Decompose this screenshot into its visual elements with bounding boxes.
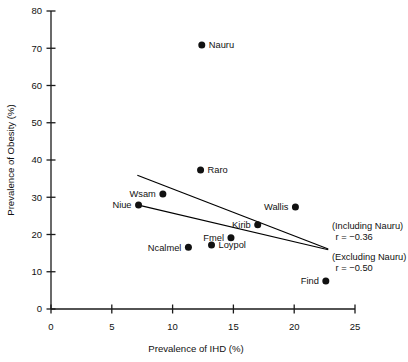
x-axis-tick-label: 0 (48, 321, 53, 332)
x-axis: 0510152025 (48, 305, 360, 333)
data-point-marker (185, 244, 192, 251)
y-axis-tick-label: 60 (31, 80, 42, 91)
data-point-marker (292, 203, 299, 210)
x-axis-tick-label: 20 (289, 321, 300, 332)
data-point-label: Nauru (209, 40, 234, 50)
data-point-label: Wsam (130, 189, 157, 199)
y-axis-tick-label: 30 (31, 192, 42, 203)
y-axis-tick-label: 70 (31, 43, 42, 54)
y-axis: 01020304050607080 (31, 5, 55, 314)
data-point-label: Wallis (264, 202, 289, 212)
x-axis-tick-label: 5 (109, 321, 114, 332)
data-points: NauruRaroWsamNiueWallisKiribFmelLoypolNc… (112, 40, 329, 286)
y-axis-tick-label: 40 (31, 154, 42, 165)
y-axis-tick-label: 20 (31, 229, 42, 240)
data-point-marker (197, 167, 204, 174)
correlation-annotations: (Including Nauru)r = −0.36(Excluding Nau… (332, 221, 406, 273)
x-axis-tick-label: 10 (167, 321, 178, 332)
y-axis-tick-label: 0 (37, 303, 42, 314)
data-point-label: Ncalmel (148, 243, 182, 253)
y-axis-tick-label: 10 (31, 266, 42, 277)
scatter-plot-figure: 01020304050607080 0510152025 NauruRaroWs… (0, 0, 408, 362)
annotation-text: r = −0.36 (336, 232, 373, 242)
x-axis-tick-label: 25 (350, 321, 361, 332)
data-point-label: Loypol (219, 240, 246, 250)
y-axis-tick-label: 50 (31, 117, 42, 128)
data-point-marker (159, 190, 166, 197)
y-axis-title: Prevalence of Obesity (%) (5, 104, 16, 215)
x-axis-title: Prevalence of IHD (%) (148, 343, 243, 354)
x-axis-tick-label: 15 (228, 321, 239, 332)
data-point-label: Niue (112, 200, 131, 210)
y-axis-tick-label: 80 (31, 5, 42, 16)
annotation-text: (Excluding Nauru) (332, 252, 406, 262)
data-point-marker (254, 221, 261, 228)
data-point-label: Raro (208, 165, 228, 175)
data-point-marker (135, 202, 142, 209)
annotation-text: r = −0.50 (336, 263, 373, 273)
data-point-marker (198, 41, 205, 48)
data-point-label: Kirib (232, 220, 251, 230)
data-point-marker (322, 278, 329, 285)
data-point-label: Find (301, 276, 319, 286)
plot-canvas: 01020304050607080 0510152025 NauruRaroWs… (0, 0, 408, 362)
annotation-text: (Including Nauru) (332, 221, 403, 231)
data-point-marker (208, 241, 215, 248)
